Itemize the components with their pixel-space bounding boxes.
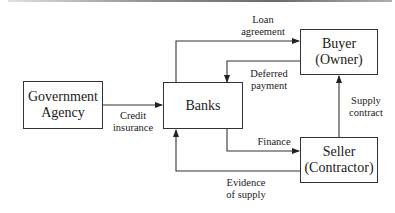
- label-line: contract: [344, 107, 388, 119]
- label-line: Loan: [228, 14, 298, 26]
- label-evidence-of-supply: Evidence of supply: [218, 177, 274, 201]
- node-buyer: Buyer (Owner): [300, 29, 378, 75]
- label-supply-contract: Supply contract: [344, 95, 388, 119]
- label-line: Deferred: [244, 68, 294, 80]
- node-government-agency: Government Agency: [23, 81, 103, 129]
- label-line: Credit: [108, 110, 158, 122]
- node-label: Buyer: [322, 36, 356, 52]
- label-line: agreement: [228, 26, 298, 38]
- label-line: Supply: [344, 95, 388, 107]
- label-deferred-payment: Deferred payment: [244, 68, 294, 92]
- node-label: (Owner): [315, 52, 362, 68]
- label-finance: Finance: [252, 136, 296, 148]
- label-line: Evidence: [218, 177, 274, 189]
- node-banks: Banks: [163, 82, 243, 129]
- node-label: Seller: [323, 144, 356, 160]
- label-credit-insurance: Credit insurance: [108, 110, 158, 134]
- label-line: payment: [244, 80, 294, 92]
- node-seller: Seller (Contractor): [300, 137, 378, 183]
- label-line: Finance: [252, 136, 296, 148]
- node-label: (Contractor): [304, 160, 373, 176]
- label-line: of supply: [218, 189, 274, 201]
- node-label: Agency: [41, 105, 85, 121]
- node-label: Banks: [186, 98, 221, 114]
- label-loan-agreement: Loan agreement: [228, 14, 298, 38]
- label-line: insurance: [108, 122, 158, 134]
- node-label: Government: [28, 89, 98, 105]
